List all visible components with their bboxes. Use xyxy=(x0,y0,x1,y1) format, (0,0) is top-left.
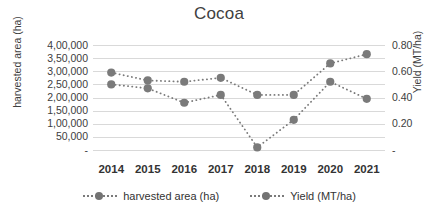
y-axis-left-tick-label: 3,00,000 xyxy=(47,65,88,78)
x-axis-tick-label: 2014 xyxy=(91,163,131,175)
data-point-marker xyxy=(253,143,261,151)
data-point-marker xyxy=(217,91,225,99)
data-point-marker xyxy=(326,59,334,67)
y-axis-right-title: Yield (MT/ha) xyxy=(411,2,423,122)
x-axis-tick-label: 2016 xyxy=(164,163,204,175)
y-axis-right-tick-label: 0.80 xyxy=(392,39,412,52)
x-axis-tick-label: 2019 xyxy=(274,163,314,175)
y-axis-right-tick-label: - xyxy=(392,144,396,157)
legend-item-yield: Yield (MT/ha) xyxy=(249,190,356,202)
chart-legend: harvested area (ha) Yield (MT/ha) xyxy=(0,190,438,202)
y-axis-left-tick-label: 2,00,000 xyxy=(47,91,88,104)
data-point-marker xyxy=(290,91,298,99)
y-axis-left-tick-label: - xyxy=(85,144,89,157)
data-point-marker xyxy=(326,78,334,86)
data-point-marker xyxy=(180,99,188,107)
y-axis-left-tick-label: 2,50,000 xyxy=(47,78,88,91)
x-axis-ticks: 20142015201620172018201920202021 xyxy=(93,163,385,179)
data-point-marker xyxy=(363,95,371,103)
chart-title: Cocoa xyxy=(0,4,438,24)
legend-label: Yield (MT/ha) xyxy=(290,190,356,202)
y-axis-right-tick-label: 0.20 xyxy=(392,117,412,130)
legend-label: harvested area (ha) xyxy=(123,190,219,202)
x-axis-tick-label: 2021 xyxy=(347,163,387,175)
y-axis-left-tick-label: 1,00,000 xyxy=(47,117,88,130)
series-canvas xyxy=(93,45,385,165)
data-point-marker xyxy=(290,116,298,124)
y-axis-left-tick-label: 4,00,000 xyxy=(47,39,88,52)
plot-area xyxy=(93,45,385,150)
data-point-marker xyxy=(217,74,225,82)
data-point-marker xyxy=(107,80,115,88)
y-axis-right-tick-label: 0.40 xyxy=(392,91,412,104)
data-point-marker xyxy=(253,91,261,99)
y-axis-right-tick-label: 0.60 xyxy=(392,65,412,78)
data-point-marker xyxy=(144,76,152,84)
y-axis-left-tick-label: 50,000 xyxy=(56,130,88,143)
y-axis-left-title: harvested area (ha) xyxy=(11,2,23,122)
data-point-marker xyxy=(363,50,371,58)
legend-item-harvested-area: harvested area (ha) xyxy=(82,190,219,202)
x-axis-tick-label: 2015 xyxy=(128,163,168,175)
legend-marker-icon xyxy=(82,191,118,201)
y-axis-left-tick-label: 1,50,000 xyxy=(47,104,88,117)
y-axis-left-tick-label: 3,50,000 xyxy=(47,52,88,65)
legend-marker-icon xyxy=(249,191,285,201)
x-axis-tick-label: 2020 xyxy=(310,163,350,175)
data-point-marker xyxy=(144,84,152,92)
x-axis-tick-label: 2017 xyxy=(201,163,241,175)
data-point-marker xyxy=(180,78,188,86)
x-axis-tick-label: 2018 xyxy=(237,163,277,175)
cocoa-chart: Cocoa harvested area (ha) Yield (MT/ha) … xyxy=(0,0,438,218)
data-point-marker xyxy=(107,68,115,76)
